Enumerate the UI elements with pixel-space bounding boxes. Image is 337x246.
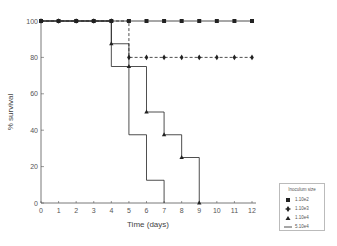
- diamond-marker-icon: [283, 206, 293, 212]
- line-marker-icon: [283, 224, 293, 230]
- legend-item: 5.10e4: [283, 222, 321, 231]
- diamond-marker: [162, 55, 166, 61]
- x-tick-label: 0: [39, 207, 43, 214]
- triangle-marker: [162, 132, 166, 136]
- square-marker: [162, 19, 166, 23]
- x-tick-label: 6: [145, 207, 149, 214]
- x-tick-label: 11: [231, 207, 238, 214]
- series-1.10e4: [39, 19, 202, 205]
- legend-item: 1.10e3: [283, 204, 321, 213]
- x-tick-label: 8: [180, 207, 184, 214]
- triangle-marker: [197, 201, 201, 205]
- y-axis-label: % survival: [6, 94, 15, 131]
- x-tick-label: 2: [74, 207, 78, 214]
- triangle-marker-icon: [283, 215, 293, 221]
- square-marker: [215, 19, 219, 23]
- x-tick-label: 10: [213, 207, 221, 214]
- legend: Inoculum size 1.10e2 1.10e3 1.10e4 5.10e…: [279, 183, 325, 231]
- x-axis-label: Time (days): [127, 220, 169, 229]
- y-tick-label: 40: [30, 127, 38, 134]
- legend-title: Inoculum size: [283, 187, 321, 192]
- y-tick-label: 20: [30, 163, 38, 170]
- diamond-marker: [180, 55, 184, 61]
- x-tick-label: 12: [248, 207, 256, 214]
- square-marker: [180, 19, 184, 23]
- y-tick-label: 60: [30, 90, 38, 97]
- y-tick-label: 80: [30, 54, 38, 61]
- x-tick-label: 9: [197, 207, 201, 214]
- diamond-marker: [215, 55, 219, 61]
- legend-item: 1.10e2: [283, 195, 321, 204]
- square-marker-icon: [283, 197, 293, 203]
- y-tick-label: 100: [26, 18, 38, 25]
- square-marker: [232, 19, 236, 23]
- square-marker: [197, 19, 201, 23]
- square-marker: [145, 19, 149, 23]
- x-tick-label: 1: [57, 207, 61, 214]
- triangle-marker: [144, 110, 148, 114]
- diamond-marker: [197, 55, 201, 61]
- y-tick-label: 0: [34, 200, 38, 207]
- diamond-marker: [250, 55, 254, 61]
- x-tick-label: 5: [127, 207, 131, 214]
- series-1.10e3: [39, 18, 254, 60]
- axes: 0123456789101112020406080100: [26, 18, 256, 215]
- triangle-marker: [179, 155, 183, 159]
- square-marker: [250, 19, 254, 23]
- series-group: [39, 18, 254, 204]
- x-tick-label: 3: [92, 207, 96, 214]
- diamond-marker: [145, 55, 149, 61]
- x-tick-label: 7: [162, 207, 166, 214]
- x-tick-label: 4: [109, 207, 113, 214]
- diamond-marker: [233, 55, 237, 61]
- legend-item: 1.10e4: [283, 213, 321, 222]
